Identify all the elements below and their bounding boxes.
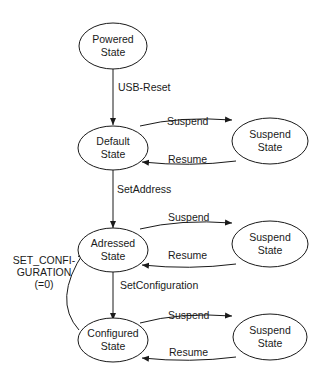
default-label-1: Default xyxy=(96,135,129,147)
suspend1-label-1: Suspend xyxy=(249,128,291,140)
suspend3-label-1: Suspend xyxy=(249,324,291,336)
resume-arrow-2 xyxy=(142,264,236,267)
set-config-zero-label-3: (=0) xyxy=(35,278,54,290)
resume-label-3: Resume xyxy=(169,346,208,358)
suspend-label-3: Suspend xyxy=(168,309,210,321)
default-label-2: State xyxy=(101,148,126,160)
resume-label-1: Resume xyxy=(168,153,207,165)
state-diagram: Powered State Default State Suspend Stat… xyxy=(0,0,310,379)
set-address-label: SetAddress xyxy=(117,183,171,195)
set-config-zero-label-1: SET_CONFI- xyxy=(13,254,76,266)
addressed-label-1: Adressed xyxy=(91,237,136,249)
set-config-zero-label-2: GURATION xyxy=(17,266,72,278)
configured-label-2: State xyxy=(101,340,126,352)
suspend-label-2: Suspend xyxy=(168,211,210,223)
suspend1-label-2: State xyxy=(258,141,283,153)
suspend2-label-1: Suspend xyxy=(249,231,291,243)
configured-label-1: Configured xyxy=(87,327,139,339)
powered-label-1: Powered xyxy=(92,33,134,45)
set-configuration-label: SetConfiguration xyxy=(120,279,198,291)
usb-reset-label: USB-Reset xyxy=(118,81,171,93)
powered-label-2: State xyxy=(101,46,126,58)
resume-label-2: Resume xyxy=(168,249,207,261)
addressed-label-2: State xyxy=(101,250,126,262)
suspend-label-1: Suspend xyxy=(167,115,209,127)
suspend3-label-2: State xyxy=(258,337,283,349)
suspend2-label-2: State xyxy=(258,244,283,256)
